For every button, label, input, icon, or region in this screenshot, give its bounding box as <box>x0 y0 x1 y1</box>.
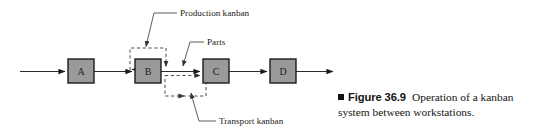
transport-kanban-label: Transport kanban <box>219 116 284 126</box>
parts-label: Parts <box>207 37 226 47</box>
annotation-production-kanban: Production kanban <box>146 8 250 47</box>
production-kanban-leader <box>147 13 177 42</box>
station-b[interactable]: B <box>135 59 161 83</box>
station-c-label: C <box>213 66 220 77</box>
annotation-transport-kanban: Transport kanban <box>191 93 284 126</box>
station-a[interactable]: A <box>68 59 94 83</box>
figure-number: Figure 36.9 <box>348 91 406 103</box>
transport-kanban-loop <box>165 76 206 97</box>
figure-caption-text-2: system between workstations. <box>338 106 474 118</box>
station-d[interactable]: D <box>270 59 296 83</box>
caption-square-bullet-icon <box>338 94 344 100</box>
station-b-label: B <box>145 66 152 77</box>
production-kanban-label: Production kanban <box>180 8 250 18</box>
production-kanban-leader-arrow <box>146 42 147 47</box>
figure-caption-line-2: system between workstations. <box>338 105 543 120</box>
figure-caption-line-1: Figure 36.9Operation of a kanban <box>338 90 543 105</box>
figure-page: A B C D Production kanban Parts <box>0 0 553 137</box>
parts-leader-arrow <box>183 62 184 66</box>
figure-caption: Figure 36.9Operation of a kanban system … <box>338 90 543 120</box>
station-c[interactable]: C <box>203 59 229 83</box>
transport-kanban-leader <box>192 97 216 121</box>
station-a-label: A <box>77 66 85 77</box>
parts-leader <box>184 42 204 62</box>
station-d-label: D <box>279 66 286 77</box>
figure-caption-text-1: Operation of a kanban <box>412 91 514 103</box>
kanban-diagram: A B C D Production kanban Parts <box>0 0 340 137</box>
